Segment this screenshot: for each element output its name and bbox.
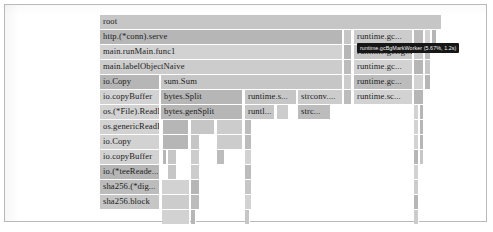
flamegraph-frame-unlabeled[interactable] — [425, 60, 431, 75]
flamegraph-frame[interactable]: main.labelObjectNaive — [100, 60, 343, 75]
flamegraph-frame[interactable]: io.(*teeReade... — [100, 165, 160, 180]
flamegraph-frame-unlabeled[interactable] — [425, 75, 431, 90]
flamegraph-frame-unlabeled[interactable] — [245, 165, 252, 180]
flamegraph-frame-label: io.Copy — [103, 75, 159, 88]
flamegraph-frame-unlabeled[interactable] — [344, 60, 352, 75]
flamegraph-frame-label: runtime.gc... — [357, 75, 412, 88]
flamegraph-frame-unlabeled[interactable] — [414, 165, 419, 180]
flamegraph-frame-unlabeled[interactable] — [191, 150, 200, 165]
flamegraph-frame-label: strc... — [301, 105, 330, 118]
flamegraph-frame[interactable]: bytes.genSplit — [161, 105, 243, 120]
flamegraph-frame-label: os.(*File).ReadFrom — [103, 105, 159, 118]
flamegraph-frame-unlabeled[interactable] — [420, 105, 424, 120]
flamegraph-frame-unlabeled[interactable] — [163, 120, 189, 135]
flamegraph-frame-label: main.runMain.func1 — [103, 45, 342, 58]
flamegraph-frame-unlabeled[interactable] — [420, 135, 424, 150]
flamegraph-frame-label: io.copyBuffer — [103, 150, 159, 163]
flamegraph-frame-unlabeled[interactable] — [245, 150, 252, 165]
flamegraph-frame[interactable]: runtl... — [245, 105, 275, 120]
flamegraph-frame-unlabeled[interactable] — [162, 195, 190, 210]
flamegraph-frame-label: main.labelObjectNaive — [103, 60, 342, 73]
flamegraph-frame[interactable]: sha256.(*dig... — [100, 180, 160, 195]
flamegraph-frame-unlabeled[interactable] — [414, 60, 424, 75]
flamegraph-frame-unlabeled[interactable] — [344, 75, 352, 90]
flamegraph-chart[interactable]: roothttp.(*conn).serveruntime.gc...main.… — [5, 5, 488, 223]
flamegraph-frame-label: io.copyBuffer — [103, 90, 159, 103]
flamegraph-frame[interactable]: io.Copy — [100, 135, 160, 150]
flamegraph-frame[interactable]: runtime.gc... — [354, 75, 413, 90]
flamegraph-frame-unlabeled[interactable] — [191, 165, 200, 180]
flamegraph-frame-unlabeled[interactable] — [344, 45, 352, 60]
flamegraph-frame-label: sha256.(*dig... — [103, 180, 159, 193]
flamegraph-frame-unlabeled[interactable] — [245, 135, 252, 150]
flamegraph-frame-unlabeled[interactable] — [217, 135, 243, 150]
flamegraph-frame-label: http.(*conn).serve — [103, 30, 342, 43]
flamegraph-frame-label: runtime.sc... — [357, 90, 412, 103]
flamegraph-frame-label: bytes.genSplit — [164, 105, 242, 118]
flamegraph-frame-unlabeled[interactable] — [191, 135, 200, 150]
flamegraph-frame[interactable]: io.copyBuffer — [100, 150, 160, 165]
flamegraph-frame[interactable]: os.genericReadFrom — [100, 120, 160, 135]
flamegraph-frame-label: os.genericReadFrom — [103, 120, 159, 133]
flamegraph-frame-unlabeled[interactable] — [162, 180, 190, 195]
flamegraph-frame-label: io.Copy — [103, 135, 159, 148]
flamegraph-frame[interactable]: io.copyBuffer — [100, 90, 160, 105]
flamegraph-frame-unlabeled[interactable] — [217, 120, 243, 135]
flamegraph-frame-label: bytes.Split — [164, 90, 242, 103]
flamegraph-frame[interactable]: strc... — [298, 105, 331, 120]
flamegraph-frame-unlabeled[interactable] — [277, 105, 289, 120]
flamegraph-frame-unlabeled[interactable] — [191, 195, 200, 210]
flamegraph-frame-label: runtime.gc... — [357, 30, 412, 43]
flamegraph-frame-unlabeled[interactable] — [191, 120, 215, 135]
flamegraph-frame-label: sha256.block — [103, 195, 159, 208]
flamegraph-frame-unlabeled[interactable] — [245, 195, 252, 210]
flamegraph-frame-label: runtl... — [248, 105, 274, 118]
flamegraph-frame-label: io.(*teeReade... — [103, 165, 159, 178]
flamegraph-frame-unlabeled[interactable] — [414, 195, 419, 210]
flamegraph-frame[interactable]: sha256.block — [100, 195, 160, 210]
flamegraph-frame-unlabeled[interactable] — [245, 210, 250, 225]
flamegraph-frame-unlabeled[interactable] — [414, 75, 424, 90]
flamegraph-frame[interactable]: runtime.gc... — [354, 60, 413, 75]
flamegraph-frame-unlabeled[interactable] — [420, 120, 424, 135]
flamegraph-frame-unlabeled[interactable] — [217, 150, 225, 165]
flamegraph-frame-unlabeled[interactable] — [414, 210, 419, 225]
flamegraph-frame-unlabeled[interactable] — [191, 210, 196, 225]
flamegraph-frame-unlabeled[interactable] — [168, 150, 177, 165]
flamegraph-frame[interactable]: os.(*File).ReadFrom — [100, 105, 160, 120]
flamegraph-frame-unlabeled[interactable] — [163, 150, 167, 165]
flamegraph-frame-unlabeled[interactable] — [245, 120, 252, 135]
flamegraph-frame-unlabeled[interactable] — [344, 90, 352, 105]
flamegraph-frame-unlabeled[interactable] — [414, 180, 419, 195]
flamegraph-frame[interactable]: strconv.... — [298, 90, 343, 105]
flamegraph-frame-unlabeled[interactable] — [414, 90, 424, 105]
flamegraph-frame-unlabeled[interactable] — [162, 210, 190, 225]
flamegraph-frame-unlabeled[interactable] — [168, 165, 177, 180]
flamegraph-frame-unlabeled[interactable] — [344, 30, 352, 45]
flamegraph-frame[interactable]: sum.Sum — [161, 75, 343, 90]
flamegraph-frame[interactable]: http.(*conn).serve — [100, 30, 343, 45]
flamegraph-frame[interactable]: io.Copy — [100, 75, 160, 90]
flamegraph-frame-unlabeled[interactable] — [245, 180, 252, 195]
flamegraph-frame[interactable]: root — [100, 15, 442, 30]
flamegraph-frame[interactable]: runtime.sc... — [354, 90, 413, 105]
flamegraph-frame-unlabeled[interactable] — [414, 120, 419, 135]
flamegraph-frame-label: runtime.s... — [248, 90, 296, 103]
flamegraph-frame-unlabeled[interactable] — [420, 150, 424, 165]
flamegraph-frame-unlabeled[interactable] — [191, 180, 200, 195]
figure-frame: roothttp.(*conn).serveruntime.gc...main.… — [4, 4, 487, 222]
flamegraph-frame[interactable]: runtime.s... — [245, 90, 297, 105]
flamegraph-frame-unlabeled[interactable] — [414, 135, 419, 150]
flamegraph-frame[interactable]: main.runMain.func1 — [100, 45, 343, 60]
flamegraph-frame-unlabeled[interactable] — [414, 105, 419, 120]
flamegraph-frame-unlabeled[interactable] — [414, 150, 419, 165]
flamegraph-frame-unlabeled[interactable] — [163, 135, 189, 150]
flamegraph-frame-label: runtime.gc... — [357, 60, 412, 73]
flamegraph-frame-label: strconv.... — [301, 90, 342, 103]
flamegraph-tooltip: runtime.gcBgMarkWorker (5.67%, 1.2s) — [357, 43, 459, 53]
flamegraph-frame[interactable]: bytes.Split — [161, 90, 243, 105]
flamegraph-frame-label: sum.Sum — [164, 75, 342, 88]
flamegraph-frame-label: root — [103, 15, 441, 28]
